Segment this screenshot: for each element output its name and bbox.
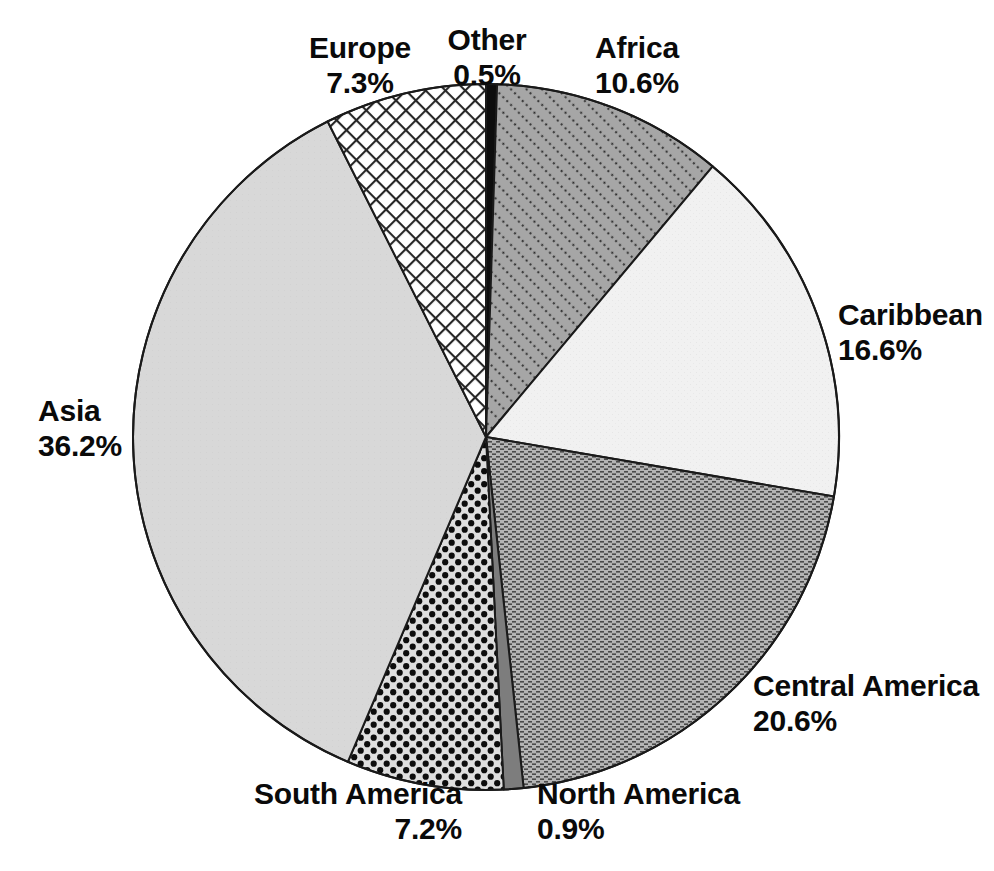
slice-label-north-america-name: North America [537,776,740,811]
slice-label-south-america-value: 7.2% [254,811,462,846]
slice-label-caribbean-value: 16.6% [838,332,983,367]
slice-label-asia-value: 36.2% [38,428,122,463]
pie-chart-canvas [0,0,994,871]
slice-label-asia: Asia 36.2% [38,393,122,463]
slice-label-other-value: 0.5% [447,57,526,92]
slice-label-africa-name: Africa [595,30,679,65]
pie-slice-group [133,84,839,790]
slice-label-europe-value: 7.3% [309,65,411,100]
slice-label-north-america: North America 0.9% [537,776,740,846]
slice-label-south-america-name: South America [254,776,462,811]
slice-label-central-america-name: Central America [753,668,979,703]
slice-label-caribbean: Caribbean 16.6% [838,297,983,367]
slice-label-other: Other 0.5% [447,22,526,92]
slice-label-central-america: Central America 20.6% [753,668,979,738]
slice-label-africa: Africa 10.6% [595,30,679,100]
slice-label-south-america: South America 7.2% [254,776,462,846]
slice-label-europe: Europe 7.3% [309,30,411,100]
slice-label-north-america-value: 0.9% [537,811,740,846]
slice-label-europe-name: Europe [309,30,411,65]
pie-chart: Europe 7.3% Other 0.5% Africa 10.6% Cari… [0,0,994,871]
slice-label-central-america-value: 20.6% [753,703,979,738]
slice-label-asia-name: Asia [38,393,122,428]
slice-label-caribbean-name: Caribbean [838,297,983,332]
slice-label-other-name: Other [447,22,526,57]
slice-label-africa-value: 10.6% [595,65,679,100]
